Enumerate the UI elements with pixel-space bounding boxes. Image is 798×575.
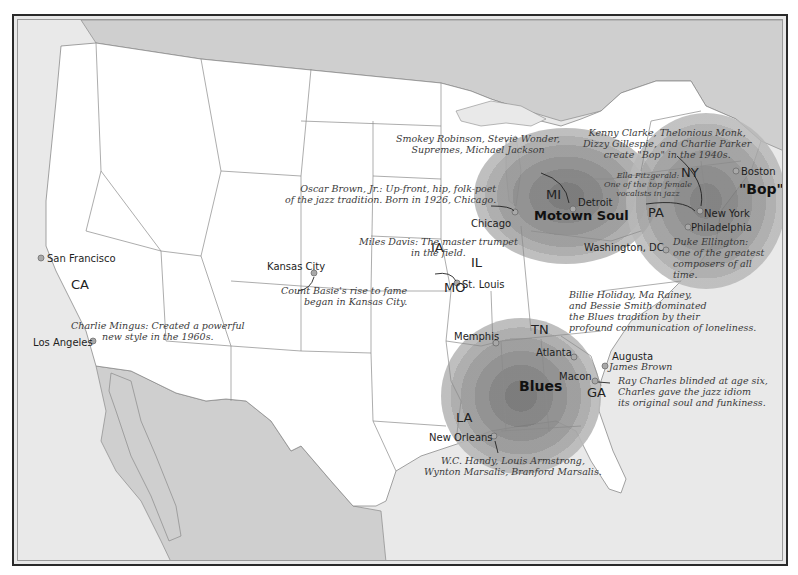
city-label-st-louis: St. Louis — [462, 279, 504, 290]
annotation-ellington-line-4: time. — [673, 270, 764, 281]
annotation-ray-line-3: its original soul and funkiness. — [618, 398, 768, 409]
city-label-chicago: Chicago — [471, 218, 511, 229]
region-label-blues: Blues — [519, 379, 562, 394]
region-label-motown-soul: Motown Soul — [534, 209, 629, 223]
map-labels-layer: CA IA IL MO MI PA NY TN GA LA Motown Sou… — [17, 19, 783, 561]
annotation-motown: Smokey Robinson, Stevie Wonder, Supremes… — [396, 134, 560, 156]
annotation-ella-line-3: vocalists in jazz — [604, 189, 692, 198]
city-label-san-francisco: San Francisco — [47, 253, 116, 264]
city-label-philadelphia: Philadelphia — [691, 222, 752, 233]
annotation-ella-line-1: Ella Fitzgerald: — [604, 171, 692, 180]
annotation-james-brown: James Brown — [609, 362, 673, 373]
annotation-billie-holiday: Billie Holiday, Ma Rainey, and Bessie Sm… — [569, 290, 756, 334]
annotation-oscar-brown: Oscar Brown, Jr.: Up-front, hip, folk-po… — [285, 184, 496, 206]
state-label-mi: MI — [546, 188, 561, 202]
annotation-ray-charles: Ray Charles blinded at age six, Charles … — [618, 376, 768, 409]
city-label-new-orleans: New Orleans — [429, 432, 493, 443]
annotation-count-basie: Count Basie's rise to fame began in Kans… — [281, 286, 407, 308]
state-label-pa: PA — [648, 206, 664, 220]
annotation-motown-line-2: Supremes, Michael Jackson — [396, 145, 560, 156]
map-frame: CA IA IL MO MI PA NY TN GA LA Motown Sou… — [12, 14, 788, 566]
annotation-oscar-line-2: of the jazz tradition. Born in 1926, Chi… — [285, 195, 496, 206]
state-label-tn: TN — [531, 323, 549, 337]
annotation-miles-davis: Miles Davis: The master trumpet in the f… — [359, 237, 518, 259]
annotation-nola-line-2: Wynton Marsalis, Branford Marsalis. — [424, 467, 602, 478]
annotation-billie-line-4: profound communication of loneliness. — [569, 323, 756, 334]
annotation-charlie-mingus: Charlie Mingus: Created a powerful new s… — [71, 321, 245, 343]
map-canvas: CA IA IL MO MI PA NY TN GA LA Motown Sou… — [17, 19, 783, 561]
state-label-ga: GA — [587, 386, 606, 400]
annotation-mingus-line-2: new style in the 1960s. — [71, 332, 245, 343]
city-label-washington-dc: Washington, DC — [584, 242, 664, 253]
city-label-new-york: New York — [704, 208, 750, 219]
city-label-memphis: Memphis — [454, 331, 499, 342]
state-label-la: LA — [456, 411, 472, 425]
annotation-basie-line-2: began in Kansas City. — [281, 297, 407, 308]
state-label-ca: CA — [71, 278, 89, 292]
annotation-duke-ellington: Duke Ellington: one of the greatest comp… — [673, 237, 764, 281]
annotation-miles-line-2: in the field. — [359, 248, 518, 259]
city-label-atlanta: Atlanta — [536, 347, 572, 358]
region-label-bop-coast: "Bop" Coast — [739, 182, 783, 197]
annotation-ella-fitzgerald: Ella Fitzgerald: One of the top female v… — [604, 171, 692, 199]
annotation-bop-line-3: create "Bop" in the 1940s. — [583, 150, 751, 161]
annotation-new-orleans-musicians: W.C. Handy, Louis Armstrong, Wynton Mars… — [424, 456, 602, 478]
city-label-kansas-city: Kansas City — [267, 261, 325, 272]
city-label-detroit: Detroit — [578, 197, 612, 208]
annotation-ella-line-2: One of the top female — [604, 180, 692, 189]
annotation-bop: Kenny Clarke, Thelonious Monk, Dizzy Gil… — [583, 128, 751, 161]
city-label-macon: Macon — [559, 371, 592, 382]
city-label-boston: Boston — [741, 166, 776, 177]
